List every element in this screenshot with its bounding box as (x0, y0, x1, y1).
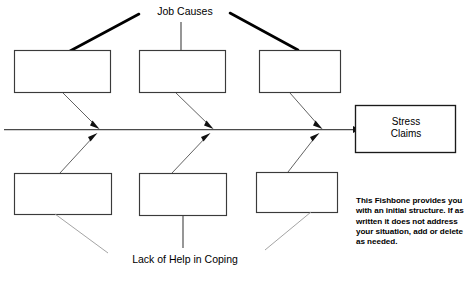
effect-label-line1: Stress (392, 116, 420, 127)
instruction-note: This Fishbone provides you with an initi… (356, 196, 468, 247)
top-branch-right-line (230, 13, 298, 50)
upper-rib-3 (290, 93, 319, 126)
lower-cause-box-3[interactable] (257, 173, 338, 213)
fishbone-diagram: Job Causes Lack of Help in Coping Stress… (0, 0, 469, 282)
lower-rib-arrowhead-1 (88, 133, 98, 142)
bottom-heading-label: Lack of Help in Coping (132, 253, 238, 265)
top-branch-left-line (70, 14, 139, 51)
upper-cause-box-3[interactable] (260, 51, 341, 93)
bottom-branch-right-line (265, 212, 311, 250)
lower-rib-2 (172, 136, 207, 173)
bottom-branch-left-line (55, 214, 108, 253)
lower-cause-box-2[interactable] (140, 174, 227, 216)
top-heading-label: Job Causes (157, 5, 212, 17)
lower-cause-box-1[interactable] (15, 174, 112, 215)
upper-rib-1 (63, 93, 96, 126)
upper-rib-arrowhead-3 (313, 121, 323, 130)
upper-cause-box-2[interactable] (140, 51, 226, 93)
effect-label-line2: Claims (391, 128, 422, 139)
lower-rib-3 (288, 136, 316, 172)
lower-rib-arrowhead-3 (310, 133, 320, 142)
upper-cause-box-1[interactable] (15, 51, 111, 93)
upper-rib-2 (176, 93, 210, 126)
lower-rib-1 (60, 136, 94, 173)
